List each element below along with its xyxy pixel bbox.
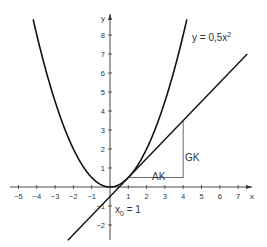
- y-tick-label: 2: [101, 145, 105, 154]
- plot-area: −5−4−3−2−11234567−2−112345678 x y y = 0,…: [0, 0, 267, 247]
- curve-label: y = 0,5x2: [192, 31, 231, 43]
- y-tick-label: 5: [101, 88, 105, 97]
- x-tick-label: 7: [236, 192, 240, 201]
- y-tick-label: 3: [101, 126, 105, 135]
- x-tick-label: 2: [145, 192, 149, 201]
- y-axis-label: y: [101, 14, 105, 23]
- ticks: −5−4−3−2−11234567−2−112345678: [14, 31, 240, 230]
- y-tick-label: −2: [96, 221, 105, 230]
- x-tick-label: 1: [126, 192, 130, 201]
- x0-label: x0 = 1: [115, 204, 141, 217]
- x-tick-label: −5: [14, 192, 23, 201]
- x-tick-label: −1: [87, 192, 96, 201]
- x-tick-label: 5: [199, 192, 203, 201]
- y-tick-label: 4: [101, 107, 105, 116]
- ak-label: AK: [152, 171, 166, 182]
- x-tick-label: 3: [163, 192, 167, 201]
- chart: −5−4−3−2−11234567−2−112345678 x y y = 0,…: [0, 0, 267, 247]
- x-tick-label: 4: [181, 192, 185, 201]
- x-tick-label: −2: [69, 192, 78, 201]
- x-tick-label: −4: [33, 192, 42, 201]
- x-tick-label: 6: [218, 192, 222, 201]
- x-axis-arrow-icon: [246, 185, 252, 189]
- gk-label: GK: [185, 152, 200, 163]
- y-tick-label: 1: [101, 164, 105, 173]
- tangent-line: [68, 54, 247, 240]
- x-axis-label: x: [250, 192, 254, 201]
- y-tick-label: 6: [101, 69, 105, 78]
- y-tick-label: 7: [101, 50, 105, 59]
- y-axis-arrow-icon: [108, 14, 112, 20]
- y-tick-label: 8: [101, 31, 105, 40]
- x-tick-label: −3: [51, 192, 60, 201]
